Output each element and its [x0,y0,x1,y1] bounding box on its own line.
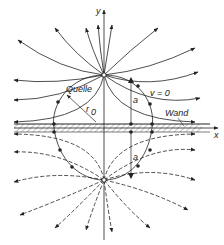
radius-subscript: 0 [91,107,96,117]
distance-a-top-label: a [133,95,138,105]
y-axis-label: y [95,6,101,16]
image-source-point [102,178,106,182]
velocity-zero-label: v = 0 [150,88,170,98]
diagram-canvas: y x Quelle r 0 v = 0 a a Wand [0,0,224,245]
image-streamlines [14,134,195,232]
source-label: Quelle [66,84,92,94]
real-source-point [102,73,106,77]
wall-label: Wand [165,108,189,118]
x-axis-label: x [213,130,219,140]
radius-label: r [86,104,90,114]
distance-a-bottom-label: a [133,152,138,162]
